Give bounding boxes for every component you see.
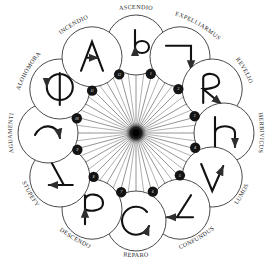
spoke-arrow-thin [128, 72, 135, 129]
spell-label: ASCENDIO [119, 4, 154, 11]
badge-number: 2 [178, 87, 180, 91]
badge-number: 1 [150, 72, 152, 76]
spell-label: HERBIVICUS [257, 112, 265, 154]
badge-number: 6 [152, 190, 154, 194]
badge-number: 8 [93, 175, 95, 179]
spoke-arrow-thin [140, 136, 185, 171]
spoke-arrow-thin [75, 134, 132, 141]
spoke-arrow-thin [141, 125, 198, 132]
badge-number: 7 [120, 190, 122, 194]
spoke-arrow-thin [140, 95, 185, 130]
spoke-arrow-thin [87, 95, 132, 130]
badge-number: 4 [194, 146, 196, 150]
spoke-arrow-thin [87, 136, 132, 171]
badge-number: 11 [91, 89, 94, 93]
wheel-canvas: ASCENDIOEXPELLIARMUSREVELIOHERBIVICUSLUM… [0, 0, 271, 273]
spoke-arrow-thin [98, 84, 133, 129]
wand-movement-wheel-diagram: ASCENDIOEXPELLIARMUSREVELIOHERBIVICUSLUM… [0, 0, 271, 273]
badge-number: 3 [194, 114, 196, 118]
spoke-arrow-thin [141, 134, 198, 141]
spoke-arrow-thin [137, 138, 144, 195]
badge-number: 12 [117, 73, 121, 77]
spoke-arrow-thin [137, 72, 144, 129]
badge-number: 9 [77, 148, 79, 152]
spoke-arrow-thin [139, 84, 174, 129]
spell-label: REPARO [123, 251, 149, 258]
spoke-arrow-thin [98, 137, 133, 182]
spoke-arrow-thin [75, 125, 132, 132]
badge-number: 5 [179, 174, 181, 178]
spoke-arrow-thin [128, 138, 135, 195]
spell-label: AGUAMENTI [7, 112, 15, 153]
center-hub-core [133, 130, 140, 137]
spoke-arrow-thin [139, 137, 174, 182]
badge-number: 10 [75, 117, 79, 121]
